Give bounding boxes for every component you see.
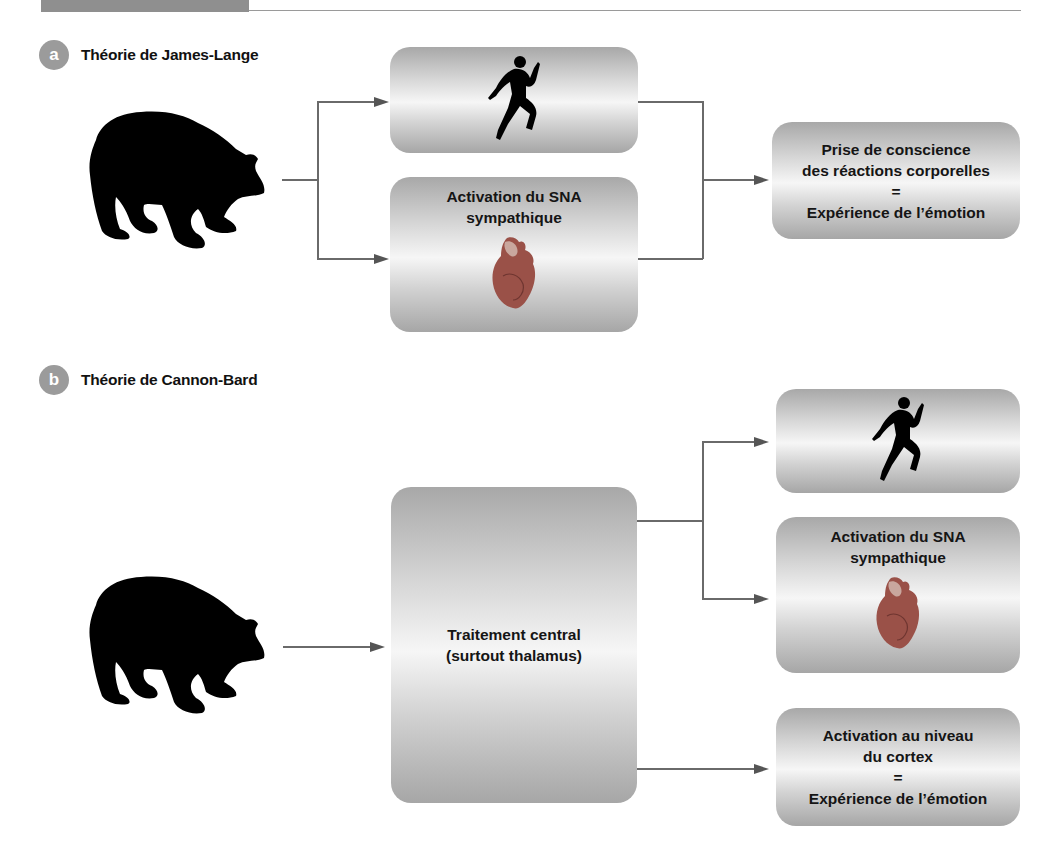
running-person-icon: [486, 54, 542, 146]
header-accent-bar: [41, 0, 249, 12]
connector-line: [637, 520, 703, 522]
section-a-heading: a Théorie de James-Lange: [39, 40, 258, 70]
arrow-head-icon: [374, 254, 389, 264]
bear-silhouette-icon: [86, 105, 268, 250]
heart-icon: [873, 576, 923, 652]
section-b-title: Théorie de Cannon-Bard: [81, 371, 257, 389]
connector-line: [283, 646, 371, 648]
arrow-head-icon: [754, 764, 769, 774]
section-a-title: Théorie de James-Lange: [81, 46, 258, 64]
sna-activation-box: Activation du SNA sympathique: [776, 517, 1020, 673]
header-rule: [249, 10, 1021, 11]
central-processing-label: Traitement central (surtout thalamus): [446, 624, 582, 666]
sna-activation-label: Activation du SNA sympathique: [830, 526, 965, 568]
section-b-badge: b: [39, 365, 69, 395]
connector-line: [282, 179, 318, 181]
bear-silhouette-icon: [86, 570, 268, 715]
behavior-box: [390, 47, 638, 153]
arrow-head-icon: [754, 594, 769, 604]
connector-line: [317, 102, 319, 259]
cortex-activation-label: Activation au niveau du cortex = Expérie…: [809, 725, 987, 809]
connector-line: [637, 768, 755, 770]
arrow-head-icon: [754, 437, 769, 447]
sna-activation-label: Activation du SNA sympathique: [446, 186, 581, 228]
arrow-head-icon: [374, 97, 389, 107]
connector-line: [702, 441, 755, 443]
connector-line: [702, 598, 755, 600]
connector-line: [638, 258, 703, 260]
arrow-head-icon: [754, 175, 769, 185]
behavior-box: [776, 389, 1020, 493]
connector-line: [317, 258, 375, 260]
sna-activation-box: Activation du SNA sympathique: [390, 177, 638, 332]
section-a-badge: a: [39, 40, 69, 70]
section-b-heading: b Théorie de Cannon-Bard: [39, 365, 257, 395]
connector-line: [317, 101, 375, 103]
central-processing-box: Traitement central (surtout thalamus): [391, 487, 637, 803]
cortex-activation-box: Activation au niveau du cortex = Expérie…: [776, 708, 1020, 826]
arrow-head-icon: [370, 642, 385, 652]
connector-line: [702, 441, 704, 599]
heart-icon: [489, 236, 539, 312]
emotion-experience-label: Prise de conscience des réactions corpor…: [802, 139, 990, 223]
emotion-experience-box: Prise de conscience des réactions corpor…: [772, 122, 1020, 239]
running-person-icon: [870, 395, 926, 487]
connector-line: [702, 179, 755, 181]
connector-line: [638, 101, 703, 103]
